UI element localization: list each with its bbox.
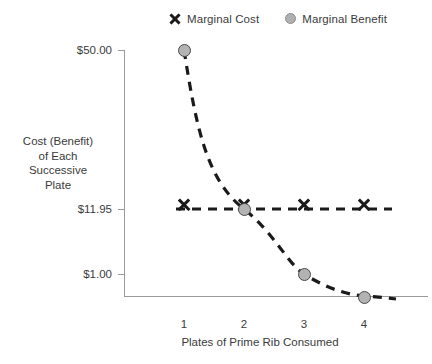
y-tick-mark-1195 — [118, 209, 125, 210]
y-axis-title-line-4: Plate — [6, 178, 110, 193]
circle-marker-icon — [285, 13, 296, 24]
y-tick-label-1195: $11.95 — [20, 203, 112, 215]
marginal-benefit-curve — [184, 50, 396, 299]
x-tick-label-1: 1 — [172, 318, 196, 330]
x-tick-label-3: 3 — [292, 318, 316, 330]
chart-container: Marginal Cost Marginal Benefit Cost (Ben… — [0, 0, 432, 364]
data-point-benefit-4 — [358, 291, 371, 304]
y-axis-title: Cost (Benefit) of Each Successive Plate — [6, 134, 110, 192]
x-marker-icon — [168, 12, 181, 25]
y-tick-label-1: $1.00 — [20, 268, 112, 280]
legend-label-marginal-benefit: Marginal Benefit — [302, 13, 387, 25]
data-point-cost-4 — [357, 198, 372, 213]
data-point-cost-3 — [297, 198, 312, 213]
data-point-benefit-2 — [238, 203, 251, 216]
data-point-benefit-3 — [298, 268, 311, 281]
y-tick-mark-1 — [118, 274, 125, 275]
y-axis-title-line-2: of Each — [6, 149, 110, 164]
y-axis-title-line-1: Cost (Benefit) — [6, 134, 110, 149]
data-point-benefit-1 — [178, 44, 191, 57]
y-axis-title-line-3: Successive — [6, 163, 110, 178]
data-point-cost-1 — [177, 198, 192, 213]
chart-legend: Marginal Cost Marginal Benefit — [168, 12, 387, 25]
x-axis-title: Plates of Prime Rib Consumed — [124, 336, 396, 348]
legend-item-marginal-cost: Marginal Cost — [168, 12, 259, 25]
y-tick-label-50: $50.00 — [20, 44, 112, 56]
legend-label-marginal-cost: Marginal Cost — [187, 13, 259, 25]
x-tick-label-2: 2 — [232, 318, 256, 330]
y-axis-line — [124, 50, 125, 296]
y-tick-mark-50 — [118, 50, 125, 51]
x-axis-line — [124, 296, 428, 297]
x-tick-label-4: 4 — [352, 318, 376, 330]
legend-item-marginal-benefit: Marginal Benefit — [285, 13, 387, 25]
